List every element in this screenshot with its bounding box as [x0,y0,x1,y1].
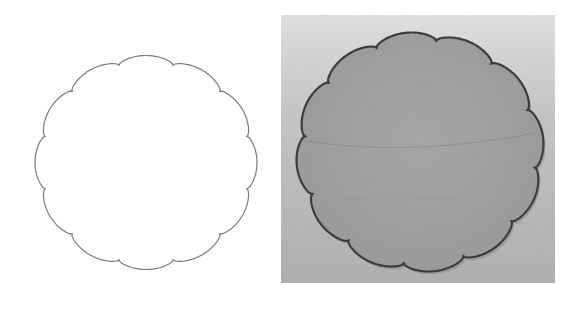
figure-canvas: Scalloped (12-lobe) outline shape beside… [0,0,577,311]
photograph [281,15,555,283]
figure-svg [0,0,577,311]
outline-drawing [35,56,257,270]
scalloped-outline-shape [35,56,257,270]
scalloped-piece [297,33,544,272]
